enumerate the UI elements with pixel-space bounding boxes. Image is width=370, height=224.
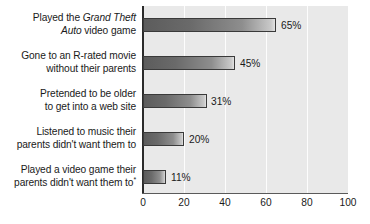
chart-row: Played the Grand Theft Auto video game 6… — [0, 6, 370, 44]
category-label-line2: to get into a web site — [45, 101, 136, 114]
bar-chart: Played the Grand Theft Auto video game 6… — [0, 0, 370, 224]
bar — [143, 56, 235, 70]
category-label: Listened to music their parents didn't w… — [0, 120, 136, 158]
category-label-line2: Auto video game — [61, 25, 136, 38]
bar — [143, 170, 166, 184]
bar — [143, 132, 184, 146]
category-label-line2: parents didn't want them to — [17, 139, 136, 152]
bar-value-label: 20% — [189, 132, 209, 146]
category-label-line2: without their parents — [46, 63, 136, 76]
footnote-marker: * — [133, 176, 136, 183]
bar-value-label: 31% — [211, 94, 231, 108]
x-tick-label-60: 60 — [260, 197, 271, 208]
bar-value-label: 65% — [281, 18, 301, 32]
x-tick-label-80: 80 — [301, 197, 312, 208]
category-label: Played a video game their parents didn't… — [0, 158, 136, 196]
category-label-line1: Listened to music their — [36, 126, 136, 139]
x-tick-label-0: 0 — [140, 197, 146, 208]
category-label: Gone to an R-rated movie without their p… — [0, 44, 136, 82]
x-tick-label-100: 100 — [340, 197, 357, 208]
category-label-line1: Pretended to be older — [40, 88, 136, 101]
bar — [143, 94, 207, 108]
chart-row: Listened to music their parents didn't w… — [0, 120, 370, 158]
chart-row: Gone to an R-rated movie without their p… — [0, 44, 370, 82]
category-label-line2: parents didn't want them to* — [14, 177, 136, 190]
bar-value-label: 45% — [240, 56, 260, 70]
x-tick-label-40: 40 — [219, 197, 230, 208]
bar-value-label: 11% — [171, 170, 191, 184]
bar — [143, 18, 276, 32]
chart-row: Played a video game their parents didn't… — [0, 158, 370, 196]
category-label: Pretended to be older to get into a web … — [0, 82, 136, 120]
x-tick-label-20: 20 — [178, 197, 189, 208]
category-label-line1: Gone to an R-rated movie — [21, 50, 136, 63]
category-label-line1: Played a video game their — [21, 164, 136, 177]
category-label-line1: Played the Grand Theft — [33, 12, 136, 25]
category-label: Played the Grand Theft Auto video game — [0, 6, 136, 44]
chart-row: Pretended to be older to get into a web … — [0, 82, 370, 120]
